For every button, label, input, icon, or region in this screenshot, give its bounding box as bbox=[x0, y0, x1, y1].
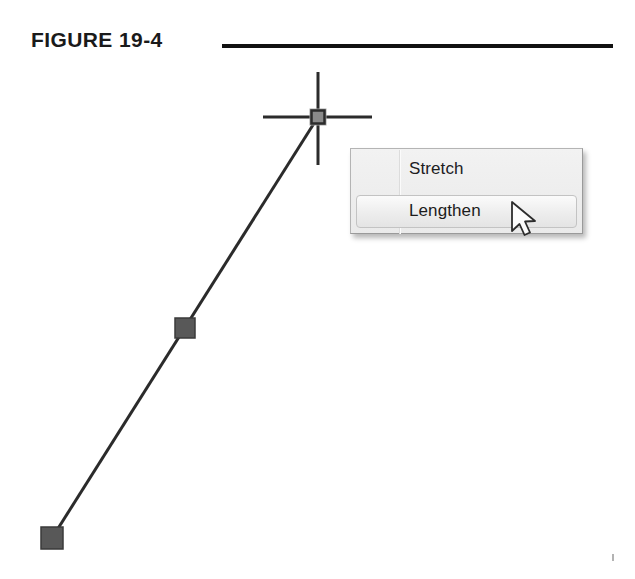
grip-midpoint[interactable] bbox=[175, 318, 195, 338]
menu-item-lengthen-label: Lengthen bbox=[409, 201, 481, 221]
menu-item-stretch[interactable]: Stretch bbox=[351, 150, 582, 190]
scan-artifact-speck bbox=[612, 554, 614, 561]
grip-context-menu[interactable]: Stretch Lengthen bbox=[350, 148, 583, 234]
figure-rule-divider bbox=[222, 44, 613, 48]
cad-drawing-canvas bbox=[0, 60, 635, 579]
figure-page: FIGURE 19-4 bbox=[0, 0, 635, 579]
grip-endpoint-bottom[interactable] bbox=[41, 527, 63, 549]
figure-caption: FIGURE 19-4 bbox=[31, 29, 163, 50]
grip-endpoint-top[interactable] bbox=[310, 109, 327, 126]
menu-item-lengthen[interactable]: Lengthen bbox=[351, 194, 582, 234]
menu-item-stretch-label: Stretch bbox=[409, 159, 464, 179]
